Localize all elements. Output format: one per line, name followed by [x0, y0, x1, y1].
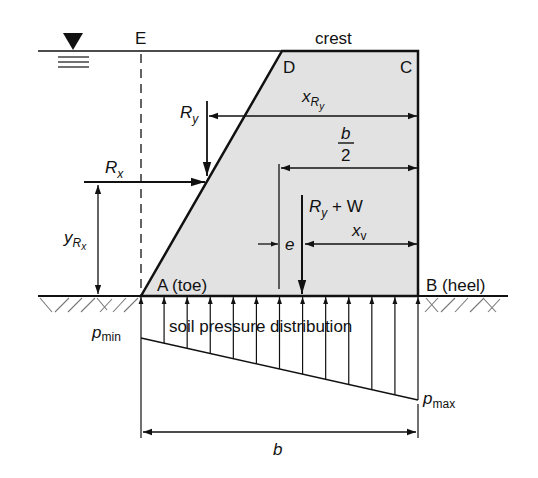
label-Ry: Ry: [180, 103, 199, 126]
soil-pressure-distribution: [141, 297, 418, 400]
label-yRx: yRx: [63, 228, 87, 252]
label-E: E: [135, 29, 146, 48]
label-e: e: [285, 235, 294, 254]
label-Rx: Rx: [105, 158, 124, 181]
label-C: C: [400, 58, 412, 77]
ground-hatch-right: [425, 298, 500, 312]
label-A-toe: A (toe): [157, 276, 207, 295]
dam-diagram: E crest D C A (toe) B (heel) Ry xRy b 2 …: [0, 0, 538, 478]
svg-text:2: 2: [341, 146, 350, 165]
ground-hatch-left: [40, 298, 138, 312]
label-soil-pressure-distribution: soil pressure distribution: [169, 317, 352, 336]
svg-text:b: b: [341, 124, 350, 143]
label-b: b: [273, 440, 282, 459]
water-surface-icon: [58, 33, 89, 67]
label-D: D: [283, 58, 295, 77]
label-B-heel: B (heel): [426, 276, 486, 295]
label-crest: crest: [315, 29, 352, 48]
label-p-max: pmax: [422, 389, 455, 411]
label-p-min: pmin: [91, 323, 121, 344]
